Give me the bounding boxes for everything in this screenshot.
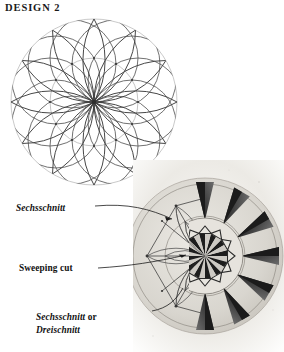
centre-point	[92, 100, 96, 104]
callout-line1-italic: Sechsschnitt	[36, 312, 85, 322]
page-title: DESIGN 2	[5, 2, 60, 13]
carved-rosette-photo	[133, 160, 284, 352]
design-page: DESIGN 2	[0, 0, 284, 352]
callout-label-sechsschnitt: Sechsschnitt	[16, 203, 65, 213]
callout-line2-italic: Dreischnitt	[36, 324, 97, 337]
callout-line1-roman: or	[85, 312, 96, 322]
callout-label-sechsschnitt-or-dreischnitt: Sechsschnitt or Dreischnitt	[36, 311, 97, 337]
callout-label-sweeping-cut: Sweeping cut	[19, 263, 73, 273]
